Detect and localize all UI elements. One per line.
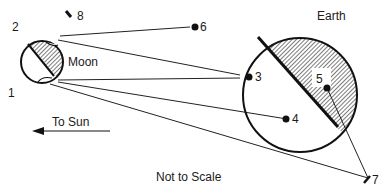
earth-label: Earth <box>317 9 346 23</box>
point-5-dot <box>324 85 331 92</box>
point-6-label: 6 <box>200 20 207 34</box>
point-5-label: 5 <box>316 72 323 86</box>
earth <box>243 30 380 160</box>
point-3-label: 3 <box>255 70 262 84</box>
moon <box>21 30 70 90</box>
point-7-label: 7 <box>372 173 379 187</box>
moon-earth-diagram: 2 1 8 6 3 4 5 7 Moon Earth To Sun Not to… <box>0 0 388 193</box>
to-sun-label: To Sun <box>52 115 89 129</box>
point-8-label: 8 <box>77 9 84 23</box>
not-to-scale-note: Not to Scale <box>156 170 222 184</box>
point-3-dot <box>246 74 253 81</box>
point-6-dot <box>192 24 199 31</box>
moon-label: Moon <box>68 55 98 69</box>
point-2-label: 2 <box>12 20 19 34</box>
point-1-label: 1 <box>8 86 15 100</box>
point-4-label: 4 <box>292 112 299 126</box>
satellite-8-icon <box>66 11 71 17</box>
point-4-dot <box>283 116 290 123</box>
